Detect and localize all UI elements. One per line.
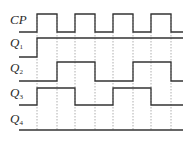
waveform-q1	[19, 38, 183, 57]
waveform-q2	[19, 62, 183, 81]
waveforms	[19, 14, 183, 130]
timing-diagram: CP Q1 Q2 Q3 Q4	[0, 0, 194, 143]
waveform-cp	[19, 14, 183, 32]
waveform-q3	[19, 88, 183, 105]
waveform-canvas	[0, 0, 194, 143]
